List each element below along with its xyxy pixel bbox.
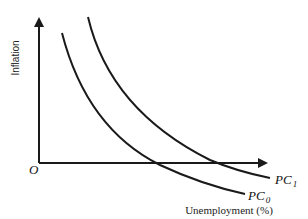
phillips-curve-diagram: O Inflation PC1 PC0 Unemployment (%) [0, 0, 308, 219]
x-axis-label: Unemployment (%) [185, 204, 273, 217]
pc1-label: PC1 [274, 172, 297, 189]
pc0-label-main: PC [247, 188, 265, 203]
origin-label: O [29, 162, 39, 177]
y-axis-label: Inflation [10, 40, 21, 75]
pc0-curve [62, 33, 245, 194]
pc0-label: PC0 [247, 188, 271, 205]
pc1-label-sub: 1 [293, 179, 298, 189]
pc1-curve [88, 17, 270, 178]
pc1-label-main: PC [274, 172, 292, 187]
